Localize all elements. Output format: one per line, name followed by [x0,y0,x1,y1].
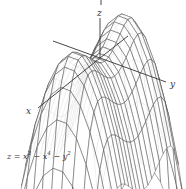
surface-formula: z = x2 − x4 − y2 [7,150,71,161]
wireframe-mesh [10,14,186,189]
z-axis-label: z [97,9,102,18]
x-axis-label: x [26,107,31,116]
y-axis-label: y [170,80,175,89]
formula-lhs: z [7,152,11,161]
